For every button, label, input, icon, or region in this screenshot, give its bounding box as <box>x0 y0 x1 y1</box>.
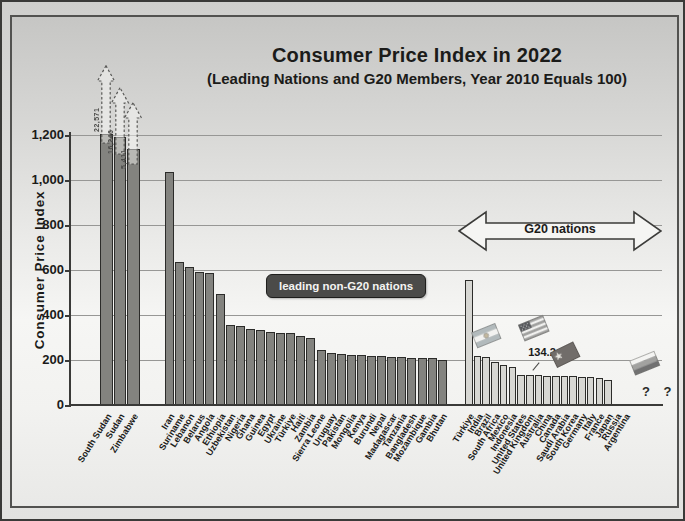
bar-bhutan <box>438 360 447 405</box>
gridline-600 <box>70 270 662 271</box>
bar-china <box>543 376 551 405</box>
bar-italy <box>587 377 595 405</box>
bar-sudan <box>114 137 127 405</box>
x-axis-line <box>69 404 663 406</box>
us-annotation-leader-line <box>532 362 539 370</box>
bar-zimbabwe <box>127 149 140 406</box>
y-tick-mark-800 <box>65 225 70 227</box>
bar-south-korea <box>569 376 577 405</box>
bar-iran <box>165 172 174 405</box>
y-tick-mark-1000 <box>65 180 70 182</box>
y-tick-label-1200: 1,200 <box>2 127 64 142</box>
bar-australia <box>535 375 543 405</box>
bar-nepal <box>377 356 386 405</box>
bar-turkiye <box>465 280 473 405</box>
bar-south-sudan <box>100 134 113 405</box>
bar-uruguay <box>327 353 336 405</box>
bar-mongolia <box>347 355 356 405</box>
y-tick-mark-600 <box>65 270 70 272</box>
bar-angola <box>205 273 214 405</box>
off-scale-value-sudan: 16,246 <box>107 100 114 154</box>
bar-ghana <box>246 329 255 406</box>
bar-mexico <box>500 365 508 405</box>
bar-belarus <box>195 272 204 405</box>
y-tick-label-400: 400 <box>2 307 64 322</box>
bar-egypt <box>266 332 275 405</box>
y-tick-label-0: 0 <box>2 397 64 412</box>
cpi-chart-page: Consumer Price Index in 2022 (Leading Na… <box>0 0 685 521</box>
bar-saudi-arabia <box>561 376 569 405</box>
title-block: Consumer Price Index in 2022 (Leading Na… <box>152 44 682 87</box>
bar-kenya <box>357 355 366 405</box>
missing-values-annotation: ? ? <box>642 384 677 399</box>
bar-japan <box>604 380 612 405</box>
y-tick-mark-200 <box>65 360 70 362</box>
y-tick-label-200: 200 <box>2 352 64 367</box>
chart-title: Consumer Price Index in 2022 <box>152 44 682 67</box>
y-tick-label-800: 800 <box>2 217 64 232</box>
bar-brazil <box>482 357 490 405</box>
bar-ukraine <box>276 333 285 405</box>
bar-ethiopia <box>216 294 225 405</box>
bar-indonesia <box>509 367 517 405</box>
bar-zambia <box>306 338 315 406</box>
bar-burundi <box>367 356 376 406</box>
y-tick-label-1000: 1,000 <box>2 172 64 187</box>
g20-nations-arrow: G20 nations <box>458 210 662 252</box>
bar-south-africa <box>491 362 499 405</box>
chart-subtitle: (Leading Nations and G20 Members, Year 2… <box>152 70 682 87</box>
bar-gambia <box>428 358 437 405</box>
gridline-1200 <box>70 135 662 136</box>
bar-suriname <box>175 262 184 405</box>
non-g20-badge: leading non-G20 nations <box>266 274 426 298</box>
bar-haiti <box>296 336 305 405</box>
bar-united-states <box>517 375 525 405</box>
bar-guinea <box>256 330 265 405</box>
bar-lebanon <box>185 267 194 405</box>
united-states-flag-icon <box>518 315 551 346</box>
russia-flag-icon <box>629 351 662 380</box>
bar-tanzania <box>397 357 406 405</box>
y-tick-mark-1200 <box>65 135 70 137</box>
y-tick-mark-0 <box>65 405 70 407</box>
argentina-flag-icon <box>471 323 503 352</box>
gridline-400 <box>70 315 662 316</box>
plot-area: leading non-G20 nations G20 nations 134.… <box>70 135 662 405</box>
bar-mozambique <box>418 358 427 405</box>
bar-turkiye <box>286 333 295 405</box>
gridline-1000 <box>70 180 662 181</box>
bar-uzbekistan <box>226 325 235 405</box>
y-tick-mark-400 <box>65 315 70 317</box>
y-tick-label-600: 600 <box>2 262 64 277</box>
bar-nigeria <box>236 326 245 405</box>
bar-france <box>596 378 604 405</box>
bar-sierra-leone <box>317 350 326 405</box>
bar-madagascar <box>387 357 396 405</box>
bar-germany <box>578 377 586 405</box>
bar-united-kingdom <box>526 375 534 405</box>
off-scale-value-zimbabwe: 5,411 <box>120 115 127 169</box>
bar-pakistan <box>337 354 346 405</box>
off-scale-value-south-sudan: 22,571 <box>93 78 100 132</box>
bar-india <box>474 356 482 405</box>
g20-arrow-label: G20 nations <box>458 222 662 236</box>
bar-canada <box>552 376 560 405</box>
bar-bangladesh <box>407 358 416 405</box>
